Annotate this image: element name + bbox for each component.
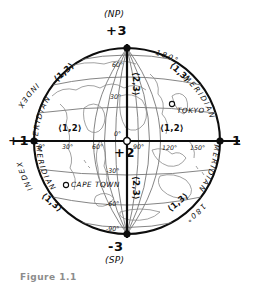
index-label-upper-left: INDEX	[15, 160, 35, 193]
right-axis-value: -1	[226, 134, 241, 147]
center-axis-value: +2	[114, 146, 135, 159]
south-pole-dot	[123, 230, 130, 237]
city-label-tokyo: TOKYO	[177, 107, 205, 114]
latitude-tick-minus90: -90°	[106, 226, 119, 232]
longitude-tick-30: 30°	[62, 144, 73, 150]
longitude-tick-150: 150°	[190, 145, 205, 151]
latitude-tick-minus60: -60°	[106, 201, 119, 207]
right-axis-dot	[216, 137, 223, 144]
index-pair-lower-center: ⟨2,3⟩	[131, 176, 140, 200]
latitude-tick-60: 60°	[112, 62, 123, 68]
latitude-tick-30: 30°	[110, 94, 121, 100]
south-pole-value: -3	[108, 240, 123, 253]
south-pole-tag: (SP)	[105, 256, 124, 265]
north-pole-value: +3	[106, 24, 127, 37]
index-pair-upper-center: ⟨2,3⟩	[131, 72, 140, 96]
north-pole-dot	[123, 44, 130, 51]
city-label-cape-town: CAPE TOWN	[71, 181, 120, 188]
longitude-tick-90: 90°	[133, 144, 144, 150]
origin-marker	[124, 138, 131, 145]
north-pole-tag: (NP)	[104, 10, 124, 19]
index-label-lower-left: INDEX	[15, 81, 40, 111]
latitude-tick-0: 0°	[114, 131, 121, 137]
cape-town-marker	[63, 182, 68, 187]
index-pair-equator-left: ⟨1,2⟩	[58, 124, 82, 133]
longitude-tick-120: 120°	[162, 145, 177, 151]
longitude-tick-60: 60°	[92, 144, 103, 150]
left-axis-value: +1	[8, 134, 29, 147]
figure-caption: Figure 1.1	[20, 272, 77, 282]
tokyo-marker	[169, 101, 174, 106]
index-pair-equator-right: ⟨1,2⟩	[160, 124, 184, 133]
longitude-tick-0: 0°	[38, 144, 45, 150]
latitude-tick-minus30: -30°	[106, 168, 119, 174]
